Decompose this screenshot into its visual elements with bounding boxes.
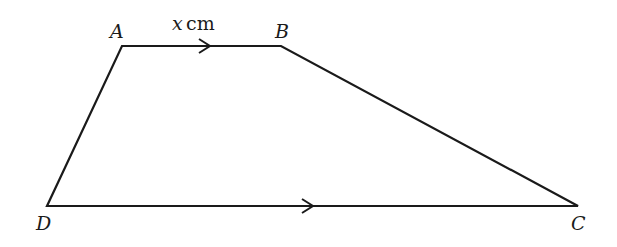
side-length-unit: cm xyxy=(186,12,215,34)
vertex-label-d: D xyxy=(35,212,51,234)
vertex-label-b: B xyxy=(274,20,289,42)
trapezium-diagram: A B C D x cm xyxy=(0,0,617,247)
vertex-label-a: A xyxy=(108,20,124,42)
trapezium-outline xyxy=(47,46,578,206)
vertex-label-c: C xyxy=(571,212,586,234)
side-length-variable: x xyxy=(172,12,183,34)
